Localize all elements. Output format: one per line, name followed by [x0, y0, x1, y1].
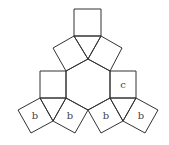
central-hexagon [66, 59, 110, 110]
square-middle-left [40, 71, 66, 98]
square-top [74, 9, 101, 36]
diagram-canvas: c b b b b [0, 0, 169, 145]
label-b-3: b [103, 110, 109, 121]
square-upper-right [88, 36, 122, 71]
triangle-left [40, 98, 66, 121]
square-upper-left [53, 36, 88, 71]
triangle-right [110, 98, 136, 121]
triangle-top [74, 36, 101, 59]
label-b-2: b [67, 110, 73, 121]
label-b-4: b [138, 110, 144, 121]
label-c: c [120, 79, 126, 90]
label-b-1: b [32, 110, 38, 121]
geometry-diagram: c b b b b [0, 0, 169, 145]
